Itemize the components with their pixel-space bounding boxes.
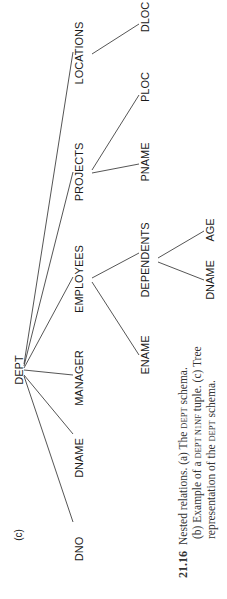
edge-dept-dno xyxy=(24,376,73,522)
edges-employees xyxy=(92,253,139,355)
node-projects: PROJECTS xyxy=(73,143,85,202)
edge-dept-employees xyxy=(24,277,73,368)
edges-locations xyxy=(92,24,139,54)
tree-diagram: DEPT DNO DNAME MANAGER EMPLOYEES PROJECT… xyxy=(0,0,227,599)
edges-dependents xyxy=(158,231,204,280)
edge-dependents-dname xyxy=(158,262,204,280)
node-pname: PNAME xyxy=(139,142,151,181)
node-dno: DNO xyxy=(73,536,85,561)
node-locations: LOCATIONS xyxy=(73,22,85,85)
edge-dept-dname xyxy=(24,375,73,434)
edges-root xyxy=(24,52,73,522)
edges-projects xyxy=(92,95,139,173)
caption-line-3: representation of the DEPT schema. xyxy=(205,380,218,539)
node-ploc: PLOC xyxy=(139,72,151,102)
edge-dept-manager xyxy=(24,370,73,375)
caption-line-1: Nested relations. (a) The DEPT schema. xyxy=(177,367,190,545)
caption-line-2: (b) Example of a DEPT N1NF tuple. (c) Tr… xyxy=(191,346,204,539)
node-dloc: DLOC xyxy=(139,2,151,33)
edge-locations-dloc xyxy=(92,24,139,54)
edge-employees-ename xyxy=(92,282,139,355)
node-dname: DNAME xyxy=(73,438,85,478)
edge-dept-projects xyxy=(24,172,73,366)
figure-caption: 21.16 Nested relations. (a) The DEPT sch… xyxy=(176,346,218,578)
node-employees: EMPLOYEES xyxy=(73,245,85,313)
node-dependents-dname: DNAME xyxy=(204,260,216,300)
caption-number: 21.16 xyxy=(176,551,190,578)
node-dependents: DEPENDENTS xyxy=(139,222,151,297)
edge-projects-pname xyxy=(92,164,139,173)
node-age: AGE xyxy=(204,218,216,241)
panel-label: (c) xyxy=(13,529,24,541)
edge-projects-ploc xyxy=(92,95,139,170)
edge-employees-dependents xyxy=(92,253,139,278)
edge-dependents-age xyxy=(158,231,204,258)
edge-dept-locations xyxy=(24,52,73,364)
node-dept: DEPT xyxy=(13,355,25,385)
node-manager: MANAGER xyxy=(73,350,85,406)
node-ename: ENAME xyxy=(139,335,151,374)
